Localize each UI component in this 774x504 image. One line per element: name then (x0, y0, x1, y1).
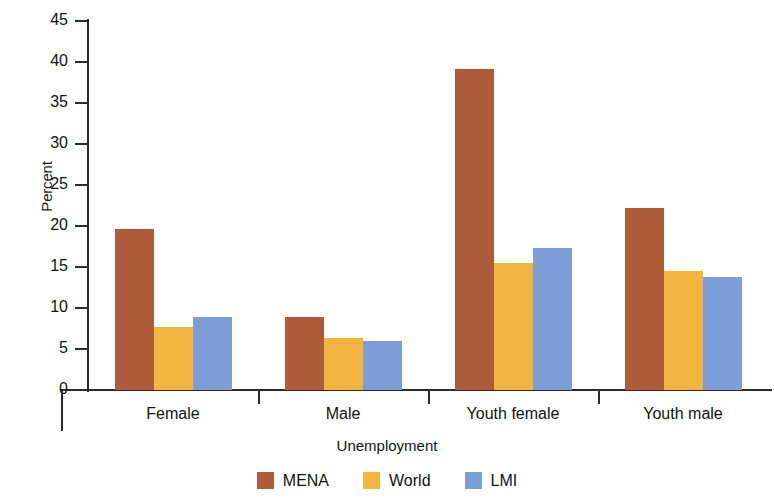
bar-world-youth-female (494, 263, 533, 390)
y-axis-tick (75, 266, 88, 268)
bar-world-male (324, 338, 363, 390)
x-axis-tick (428, 391, 430, 404)
x-axis-tick (258, 391, 260, 404)
x-axis-tick (598, 391, 600, 404)
legend-item-world: World (363, 472, 431, 489)
chart-legend: MENAWorldLMI (0, 472, 774, 489)
x-axis-label-female: Female (88, 405, 258, 423)
bar-mena-male (285, 317, 324, 390)
bar-world-youth-male (664, 271, 703, 390)
bar-chart: Percent 051015202530354045 FemaleMaleYou… (0, 0, 774, 504)
legend-label: MENA (283, 473, 329, 489)
bar-lmi-youth-male (703, 277, 742, 390)
y-axis-tick-label: 15 (24, 258, 68, 274)
bar-mena-youth-female (455, 69, 494, 390)
x-axis-tick-origin (61, 391, 63, 431)
bar-mena-youth-male (625, 208, 664, 390)
bar-lmi-female (193, 317, 232, 390)
y-axis-tick-label: 35 (24, 94, 68, 110)
y-axis-tick-label: 30 (24, 135, 68, 151)
y-axis-tick (75, 307, 88, 309)
legend-swatch-lmi-icon (465, 472, 482, 489)
bar-mena-female (115, 229, 154, 390)
x-axis-title: Unemployment (0, 437, 774, 454)
legend-item-mena: MENA (257, 472, 329, 489)
legend-swatch-world-icon (363, 472, 380, 489)
y-axis-tick-label: 40 (24, 53, 68, 69)
y-axis-tick (75, 20, 88, 22)
y-axis-tick-label: 45 (24, 12, 68, 28)
bar-lmi-male (363, 341, 402, 390)
bars-layer (88, 21, 768, 390)
y-axis-tick-label: 5 (24, 340, 68, 356)
x-axis-label-youth-female: Youth female (428, 405, 598, 423)
x-axis-label-male: Male (258, 405, 428, 423)
y-axis-tick-label: 25 (24, 176, 68, 192)
bar-lmi-youth-female (533, 248, 572, 390)
x-axis-label-youth-male: Youth male (598, 405, 768, 423)
y-axis-tick (75, 61, 88, 63)
legend-label: World (389, 473, 431, 489)
y-axis-tick (75, 143, 88, 145)
legend-item-lmi: LMI (465, 472, 518, 489)
y-axis-tick-label: 10 (24, 299, 68, 315)
y-axis-tick (75, 348, 88, 350)
y-axis-tick-label: 20 (24, 217, 68, 233)
y-axis-tick (75, 184, 88, 186)
legend-label: LMI (491, 473, 518, 489)
bar-world-female (154, 327, 193, 390)
legend-swatch-mena-icon (257, 472, 274, 489)
plot-area (88, 21, 768, 390)
y-axis-tick (75, 102, 88, 104)
y-axis-tick (75, 389, 88, 391)
y-axis-tick (75, 225, 88, 227)
